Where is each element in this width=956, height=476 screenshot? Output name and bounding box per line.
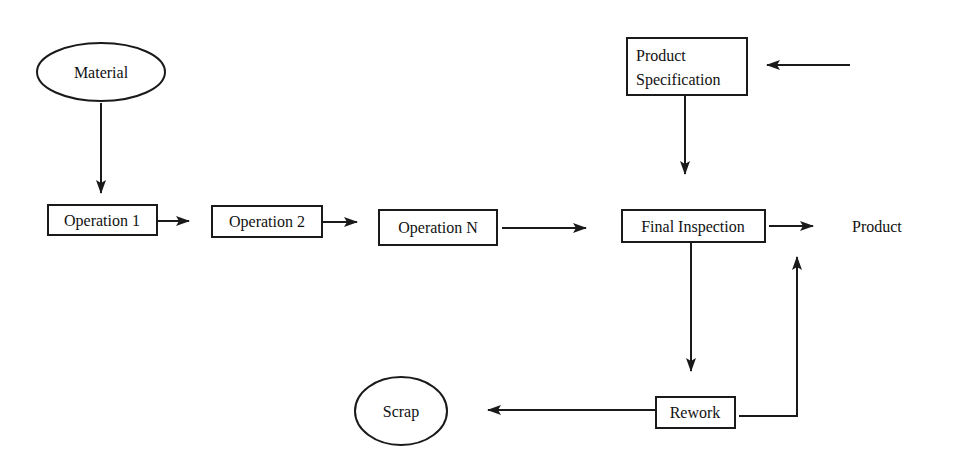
- process-flow-diagram: Material Operation 1 Operation 2 Operati…: [0, 0, 956, 476]
- arrow-rework-to-product: [739, 257, 797, 416]
- operation-2-label: Operation 2: [229, 213, 305, 231]
- rework-label: Rework: [670, 404, 721, 421]
- node-product-specification: Product Specification: [627, 38, 747, 95]
- operation-1-label: Operation 1: [64, 212, 140, 230]
- node-material: Material: [37, 43, 165, 101]
- product-specification-label-line1: Product: [636, 47, 686, 64]
- node-operation-n: Operation N: [379, 210, 497, 245]
- node-operation-1: Operation 1: [48, 205, 157, 235]
- final-inspection-label: Final Inspection: [641, 218, 745, 236]
- node-rework: Rework: [656, 397, 735, 428]
- operation-n-label: Operation N: [398, 219, 478, 237]
- node-scrap: Scrap: [355, 377, 447, 445]
- product-label: Product: [852, 218, 902, 235]
- product-specification-label-line2: Specification: [636, 71, 720, 89]
- node-operation-2: Operation 2: [212, 206, 322, 237]
- scrap-label: Scrap: [383, 403, 419, 421]
- node-final-inspection: Final Inspection: [622, 210, 765, 242]
- material-label: Material: [74, 64, 129, 81]
